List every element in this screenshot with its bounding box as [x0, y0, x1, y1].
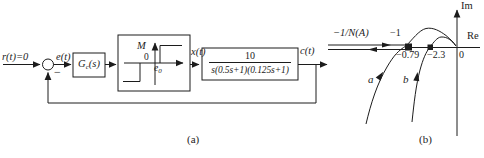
- im-axis-label: Im: [461, 1, 473, 12]
- diagram-artwork: [0, 0, 484, 158]
- origin-label: 0: [459, 50, 464, 60]
- relay-level-label: M: [137, 41, 146, 52]
- intersection-b-value: −2.3: [427, 50, 445, 60]
- relay-origin-label: 0: [144, 53, 149, 63]
- band-arrow-left: [368, 47, 377, 52]
- output-signal-label: c(t): [300, 46, 315, 57]
- relay-lower-step: [123, 63, 140, 82]
- relay-deadzone-label: e0: [154, 64, 162, 75]
- panel-a-caption: (a): [187, 134, 199, 145]
- relay-upper-step: [160, 46, 182, 64]
- controller-symbol: G: [78, 58, 86, 69]
- figure-canvas: r(t)=0 e(t) − Gc(s) M 0 e0 x(t) 10 s(0.5…: [0, 0, 484, 158]
- controller-argument: (s): [89, 58, 100, 69]
- error-signal-label: e(t): [56, 52, 71, 63]
- intersection-a-value: −0.79: [396, 50, 419, 60]
- summing-junction: [43, 59, 54, 70]
- curve-a-label: a: [368, 74, 374, 85]
- controller-label: Gc(s): [73, 59, 105, 71]
- describing-function-label: −1/N(A): [333, 28, 369, 39]
- plant-denominator: s(0.5s+1)(0.125s+1): [203, 63, 297, 77]
- plant-numerator: 10: [209, 49, 291, 63]
- plant-transfer-function: 10 s(0.5s+1)(0.125s+1): [203, 49, 297, 77]
- curve-b-label: b: [403, 74, 409, 85]
- band-arrow-right: [382, 43, 391, 48]
- re-axis-label: Re: [467, 31, 479, 42]
- panel-b-caption: (b): [419, 134, 432, 145]
- input-signal-label: r(t)=0: [2, 52, 28, 63]
- deadzone-subscript: 0: [158, 67, 162, 75]
- critical-point-label: −1: [390, 28, 401, 38]
- feedback-minus-sign: −: [54, 66, 61, 78]
